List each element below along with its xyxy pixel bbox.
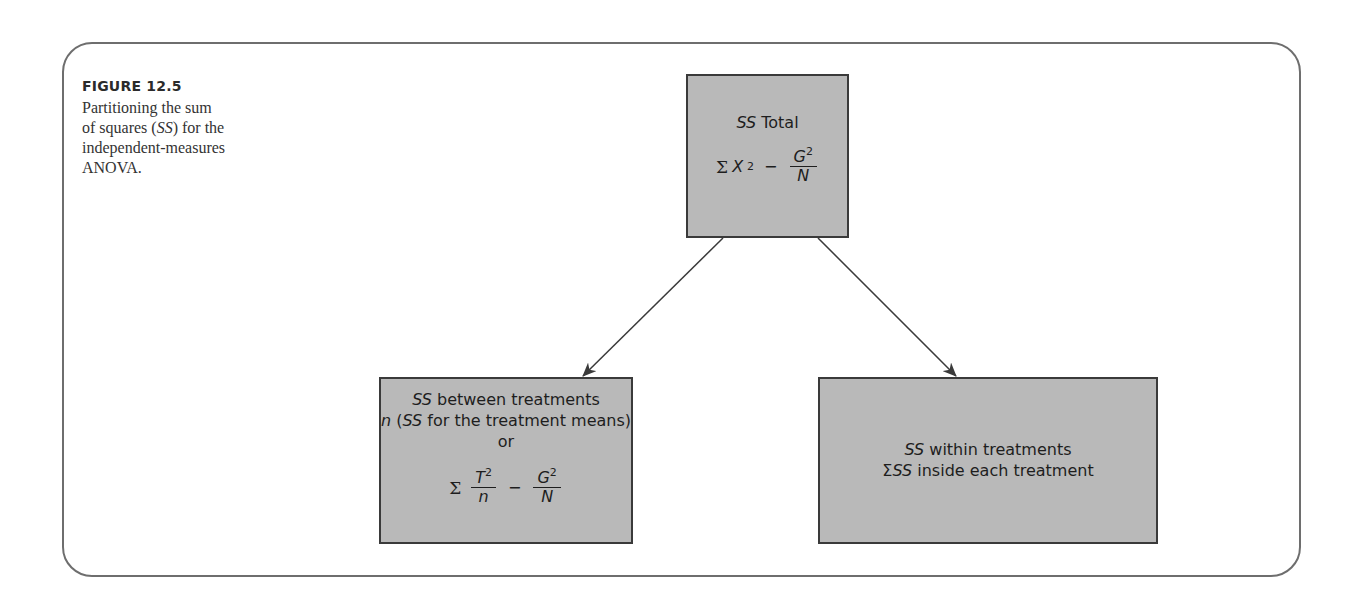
ss-between-title: SS between treatments	[381, 389, 631, 410]
ss-total-title: SS Total	[688, 112, 847, 133]
ss-within-label: within treatments	[924, 440, 1071, 459]
ss-symbol: SS	[736, 113, 756, 132]
paren: (	[391, 411, 402, 430]
ss-between-line2: n (SS for the treatment means)	[381, 410, 631, 431]
ss-symbol: SS	[892, 461, 912, 480]
exponent: 2	[550, 466, 557, 479]
ss-between-formula: Σ T2 n − G2 N	[381, 469, 631, 506]
ss-total-box: SS Total ΣX2 − G2 N	[686, 74, 849, 238]
formula-n: N	[537, 488, 557, 506]
ss-symbol: SS	[402, 411, 422, 430]
formula-n: n	[475, 488, 493, 506]
ss-between-desc: for the treatment means)	[422, 411, 631, 430]
minus-sign: −	[508, 478, 521, 497]
formula-n: N	[793, 167, 813, 185]
or-text: or	[381, 431, 631, 452]
ss-within-line2: ΣSS inside each treatment	[820, 460, 1156, 481]
ss-symbol: SS	[904, 440, 924, 459]
ss-within-title: SS within treatments	[820, 439, 1156, 460]
ss-symbol: SS	[412, 390, 432, 409]
arrow-total-to-between	[583, 238, 723, 376]
formula-n: n	[381, 411, 391, 430]
formula-g: G	[537, 468, 549, 487]
sigma-symbol: Σ	[716, 157, 728, 177]
ss-within-box: SS within treatments ΣSS inside each tre…	[818, 377, 1158, 544]
sigma-symbol: Σ	[449, 478, 461, 498]
ss-total-label: Total	[756, 113, 798, 132]
minus-sign: −	[764, 157, 777, 176]
fraction-t2-n: T2 n	[471, 469, 496, 506]
ss-between-box: SS between treatments n (SS for the trea…	[379, 377, 633, 544]
formula-t: T	[475, 468, 485, 487]
ss-within-desc: inside each treatment	[912, 461, 1093, 480]
formula-x: X	[732, 157, 743, 176]
arrow-total-to-within	[818, 238, 956, 376]
fraction-g2-n: G2 N	[533, 469, 560, 506]
sigma-symbol: Σ	[882, 461, 892, 480]
fraction-g2-n: G2 N	[790, 148, 817, 185]
ss-total-formula: ΣX2 − G2 N	[688, 148, 847, 185]
ss-between-label: between treatments	[432, 390, 600, 409]
formula-g: G	[794, 147, 806, 166]
exponent: 2	[806, 145, 813, 158]
exponent: 2	[485, 466, 492, 479]
